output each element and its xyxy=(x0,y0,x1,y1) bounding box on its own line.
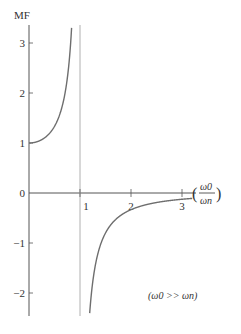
y-tick-label: 2 xyxy=(20,87,26,99)
x-tick-label: 1 xyxy=(83,200,89,212)
annotation: (ω0 >> ωn) xyxy=(148,290,198,302)
y-tick-label: 1 xyxy=(20,137,26,149)
y-axis-title: MF xyxy=(14,9,30,21)
y-tick-label: −2 xyxy=(13,287,25,299)
chart: 3210−1−2123 MF ( ω0 ωn ) (ω0 >> ωn) xyxy=(0,0,241,334)
svg-text:(: ( xyxy=(192,185,197,203)
x-axis-title: ( ω0 ωn ) xyxy=(192,181,221,206)
axes: 3210−1−2123 xyxy=(13,25,196,316)
svg-text:): ) xyxy=(216,185,221,203)
x-axis-title-numerator: ω0 xyxy=(200,181,212,192)
y-tick-label: 0 xyxy=(20,187,26,199)
x-axis-title-denominator: ωn xyxy=(200,195,212,206)
y-tick-label: 3 xyxy=(20,37,26,49)
curve-below-resonance xyxy=(29,28,72,143)
curves xyxy=(29,28,192,313)
x-tick-label: 3 xyxy=(179,200,185,212)
y-tick-label: −1 xyxy=(13,237,25,249)
